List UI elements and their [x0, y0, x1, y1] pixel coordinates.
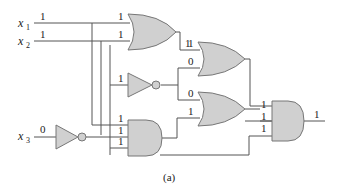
- svg-text:0: 0: [188, 87, 194, 99]
- svg-text:1: 1: [261, 110, 267, 122]
- svg-text:x: x: [17, 129, 24, 143]
- svg-text:2: 2: [26, 41, 30, 50]
- svg-text:x: x: [17, 34, 24, 48]
- svg-text:1: 1: [261, 98, 267, 110]
- and-gate-1: 1 1 1: [118, 112, 162, 156]
- svg-text:0: 0: [188, 55, 194, 67]
- svg-text:0: 0: [40, 123, 46, 135]
- svg-text:1: 1: [118, 28, 124, 40]
- figure-caption: (a): [163, 171, 176, 184]
- svg-text:1: 1: [261, 122, 267, 134]
- svg-text:1: 1: [26, 23, 30, 32]
- svg-text:1: 1: [188, 105, 194, 117]
- svg-text:1: 1: [40, 28, 46, 40]
- svg-text:1: 1: [118, 10, 124, 22]
- svg-text:1: 1: [118, 112, 124, 124]
- not-gate-2: [56, 125, 86, 149]
- logic-circuit-diagram: x 1 1 x 2 1 x 3 0: [0, 0, 346, 187]
- svg-text:1: 1: [118, 135, 124, 147]
- svg-text:x: x: [17, 16, 24, 30]
- svg-text:1: 1: [314, 108, 320, 120]
- and-gate-2: 1 1 1 1: [261, 98, 320, 141]
- or-gate-3: 0 1: [188, 87, 245, 126]
- svg-text:1: 1: [40, 10, 46, 22]
- input-x3: x 3 0: [17, 123, 46, 145]
- or-gate-2: 1 0: [188, 37, 245, 76]
- input-x2: x 2 1: [17, 28, 46, 50]
- svg-text:1: 1: [118, 72, 124, 84]
- svg-text:1: 1: [188, 37, 194, 49]
- svg-text:3: 3: [26, 136, 30, 145]
